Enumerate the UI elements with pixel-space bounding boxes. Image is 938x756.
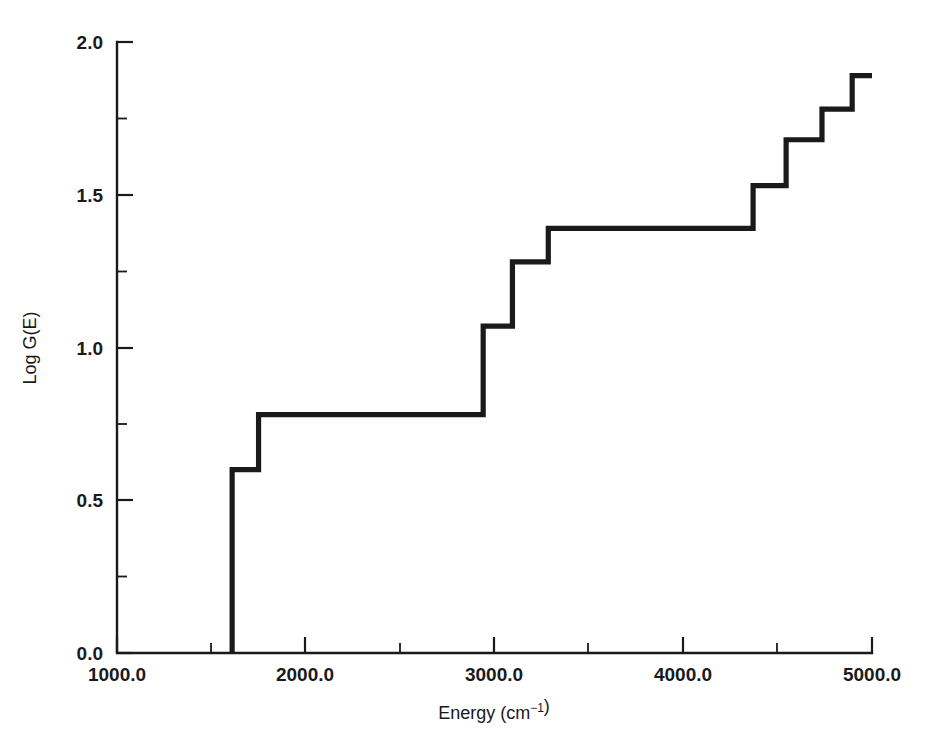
x-tick-label: 2000.0 [276,664,334,685]
y-tick-label: 2.0 [77,32,103,53]
y-tick-label: 0.0 [77,643,103,664]
y-axis-title: Log G(E) [20,311,40,384]
y-tick-label: 1.0 [77,338,103,359]
step-chart: 2.0 1.5 1.0 0.5 0.0 1000.0 2000.0 3000.0… [0,0,938,756]
y-tick-label: 1.5 [77,185,104,206]
x-tick-labels: 1000.0 2000.0 3000.0 4000.0 5000.0 [88,664,901,685]
x-tick-label: 1000.0 [88,664,146,685]
x-tick-label: 5000.0 [843,664,901,685]
y-axis-major-ticks [117,42,133,653]
step-curve [232,76,872,653]
y-tick-labels: 2.0 1.5 1.0 0.5 0.0 [77,32,104,664]
x-tick-label: 3000.0 [465,664,523,685]
x-tick-label: 4000.0 [654,664,712,685]
y-tick-label: 0.5 [77,490,104,511]
x-axis-title: Energy (cm−1) [438,696,550,723]
figure-container: 2.0 1.5 1.0 0.5 0.0 1000.0 2000.0 3000.0… [0,0,938,756]
